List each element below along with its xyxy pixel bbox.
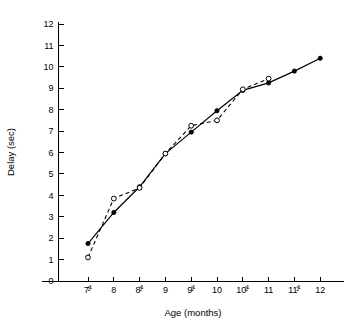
y-tick-label: 4 (48, 191, 53, 201)
y-tick-label: 5 (48, 169, 53, 179)
x-tick-label: 12 (315, 285, 325, 295)
y-axis-title: Delay (sec) (5, 128, 16, 176)
x-axis-title: Age (months) (164, 307, 221, 318)
y-tick-label: 12 (43, 19, 53, 29)
y-tick-label: 11 (44, 41, 53, 51)
y-tick-label: 6 (48, 148, 53, 158)
y-tick-label: 8 (48, 105, 53, 115)
x-tick-label: 11 (264, 285, 273, 295)
data-point-open (86, 255, 91, 260)
data-point-filled (215, 109, 219, 113)
delay-vs-age-line-chart: 0123456789101112 71–2881–2991–210101–211… (0, 0, 354, 326)
x-tick-label: 9 (163, 285, 168, 295)
y-tick-label: 10 (43, 62, 53, 72)
data-point-open (163, 151, 168, 156)
data-point-open (266, 76, 271, 81)
y-tick-label: 1 (48, 255, 53, 265)
data-point-open (240, 87, 245, 92)
y-tick-label: 2 (48, 233, 53, 243)
y-tick-label: 3 (48, 212, 53, 222)
x-tick-label: 8 (111, 285, 116, 295)
data-point-open (137, 185, 142, 190)
data-point-filled (86, 241, 90, 245)
x-tick-label: 10 (212, 285, 222, 295)
data-point-filled (292, 69, 296, 73)
data-point-filled (189, 130, 193, 134)
y-tick-label: 7 (48, 126, 53, 136)
y-tick-label: 9 (48, 83, 53, 93)
chart-container: 0123456789101112 71–2881–2991–210101–211… (0, 0, 354, 326)
data-point-open (111, 196, 116, 201)
data-point-filled (112, 210, 116, 214)
data-point-filled (318, 56, 322, 60)
y-tick-label: 0 (48, 276, 53, 286)
data-point-open (189, 123, 194, 128)
data-point-open (215, 118, 220, 123)
